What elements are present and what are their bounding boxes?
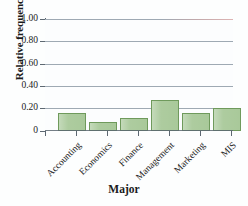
gridline-0-20 (45, 108, 233, 109)
y-tick-label: 0 (0, 126, 38, 136)
x-tick-mark (231, 131, 232, 136)
x-tick-mark (169, 131, 170, 136)
y-tick-label: 0.60 (0, 59, 38, 69)
bar-marketing (182, 113, 210, 131)
bar-mis (213, 108, 241, 131)
bar-management (151, 100, 179, 131)
gridline-0-40 (45, 86, 233, 87)
gridline-0-80 (45, 41, 233, 42)
gridline-0-60 (45, 64, 233, 65)
x-axis-line (45, 130, 233, 131)
x-axis-title: Major (0, 183, 248, 195)
y-tick-label: 0.80 (0, 36, 38, 46)
relative-frequency-bar-chart: Relative frequency 1.00 0.80 0.60 0.40 0… (0, 0, 248, 206)
y-tick-label: 0.20 (0, 103, 38, 113)
x-tick-mark (76, 131, 77, 136)
bar-accounting (58, 113, 86, 131)
gridline-1-00 (45, 19, 233, 20)
x-tick-mark (107, 131, 108, 136)
plot-area (45, 19, 233, 131)
x-tick-mark (45, 131, 46, 136)
y-tick-label: 1.00 (0, 14, 38, 24)
x-tick-mark (200, 131, 201, 136)
x-tick-mark (138, 131, 139, 136)
y-tick-label: 0.40 (0, 81, 38, 91)
